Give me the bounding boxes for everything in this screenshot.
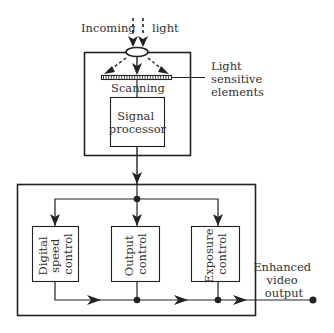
scanning-label-left: Scan	[111, 81, 140, 95]
distribution-junction-dot	[134, 196, 141, 203]
incoming-arrowhead-left-icon	[128, 36, 138, 47]
enhanced-video-output-label: Enhanced video output	[253, 260, 315, 300]
lens-icon	[126, 48, 148, 57]
signal-processor-label-line2: processor	[109, 122, 167, 136]
output-junction-dot-2	[215, 297, 222, 304]
enhanced-output-line1: Enhanced	[253, 260, 312, 274]
scanning-label-right: ning	[139, 81, 165, 95]
enhanced-output-line2: video	[266, 273, 298, 287]
signal-processor-label-line1: Signal	[117, 109, 154, 123]
incoming-light-label-left: Incoming	[81, 21, 136, 35]
enhanced-output-line3: output	[265, 286, 304, 300]
light-sensitive-label: Light sensitive elements	[211, 59, 266, 99]
camera-block-diagram: Incoming light Light sensitive elements …	[0, 0, 334, 333]
light-sensitive-label-line3: elements	[211, 85, 264, 99]
digital-speed-control-line3: control	[61, 233, 75, 275]
light-sensitive-label-line2: sensitive	[211, 72, 262, 86]
exposure-control-line1: Exposure	[202, 228, 216, 283]
output-terminal-dot	[310, 297, 317, 304]
output-control-line1: Output	[122, 235, 136, 276]
exposure-control-label: Exposure control	[202, 225, 229, 283]
ray-arrowhead-right-icon	[158, 66, 169, 74]
light-sensitive-elements-bar	[102, 76, 172, 80]
output-junction-dot-1	[134, 297, 141, 304]
exposure-control-line2: control	[215, 233, 229, 275]
light-sensitive-label-line1: Light	[211, 59, 242, 73]
incoming-light-label-right: light	[152, 21, 179, 35]
output-control-line2: control	[135, 233, 149, 275]
output-control-label: Output control	[122, 232, 149, 277]
ray-arrowhead-left-icon	[104, 66, 115, 74]
incoming-arrowhead-right-icon	[138, 36, 148, 47]
digital-speed-control-label: Digital speed control	[36, 233, 75, 276]
